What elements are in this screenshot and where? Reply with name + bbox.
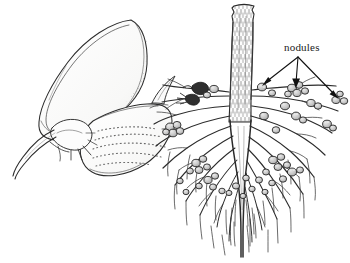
figure-canvas xyxy=(0,0,350,263)
nodules-label: nodules xyxy=(284,41,320,53)
stem xyxy=(229,5,254,123)
botanical-figure: nodules xyxy=(0,0,350,263)
